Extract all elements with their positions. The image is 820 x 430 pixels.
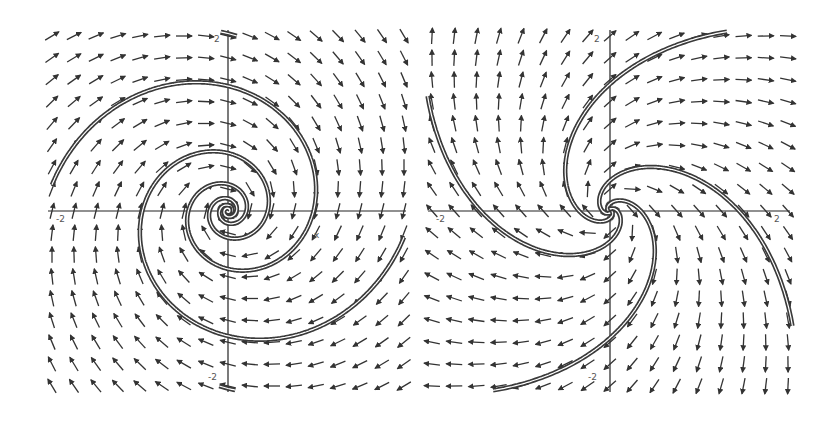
vector-arrow bbox=[713, 122, 729, 125]
vector-arrow bbox=[761, 226, 770, 239]
vector-arrow bbox=[669, 78, 684, 82]
vector-arrow bbox=[470, 251, 484, 259]
vector-arrow bbox=[308, 362, 323, 366]
vector-arrow bbox=[112, 380, 123, 392]
vector-arrow bbox=[787, 334, 788, 350]
trajectory-highlight bbox=[140, 151, 404, 339]
vector-arrow bbox=[651, 313, 658, 327]
vector-arrow bbox=[540, 51, 547, 66]
vector-arrow bbox=[718, 247, 724, 262]
vector-arrow bbox=[287, 31, 300, 40]
vector-arrow bbox=[242, 320, 258, 321]
vector-arrow bbox=[469, 319, 485, 321]
vector-arrow bbox=[713, 79, 729, 80]
vector-arrow bbox=[177, 382, 191, 390]
vector-arrow bbox=[781, 163, 794, 172]
vector-arrow bbox=[335, 226, 342, 240]
vector-arrow bbox=[312, 117, 320, 131]
vector-arrow bbox=[286, 363, 302, 366]
vector-arrow bbox=[647, 144, 663, 146]
vector-arrow bbox=[476, 72, 477, 88]
vector-arrow bbox=[669, 33, 684, 39]
vector-arrow bbox=[401, 72, 407, 87]
vector-arrow bbox=[736, 142, 751, 148]
vector-arrow bbox=[673, 379, 680, 393]
vector-arrow bbox=[520, 137, 521, 153]
vector-arrow bbox=[453, 116, 456, 132]
vector-arrow bbox=[518, 29, 524, 44]
vector-arrow bbox=[742, 378, 745, 394]
vector-arrow bbox=[156, 359, 169, 369]
vector-arrow bbox=[519, 72, 523, 88]
vector-arrow bbox=[737, 163, 751, 171]
vector-arrow bbox=[243, 120, 257, 128]
vector-arrow bbox=[308, 340, 323, 345]
vector-arrow bbox=[765, 378, 767, 394]
vector-arrow bbox=[70, 357, 78, 371]
vector-arrow bbox=[558, 318, 573, 324]
vector-arrow bbox=[397, 382, 411, 390]
vector-arrow bbox=[561, 51, 569, 65]
vector-arrow bbox=[625, 142, 640, 148]
vector-arrow bbox=[758, 121, 773, 126]
vector-arrow bbox=[95, 247, 96, 263]
vector-arrow bbox=[713, 57, 729, 59]
vector-arrow bbox=[784, 248, 791, 262]
vector-arrow bbox=[536, 362, 551, 367]
vector-arrow bbox=[133, 119, 147, 127]
vector-arrow bbox=[115, 182, 122, 196]
vector-arrow bbox=[176, 101, 192, 103]
vector-arrow bbox=[720, 269, 723, 285]
vector-arrow bbox=[73, 225, 75, 241]
vector-arrow bbox=[336, 138, 341, 153]
vector-arrow bbox=[137, 269, 143, 284]
vector-arrow bbox=[647, 32, 661, 39]
vector-arrow bbox=[542, 159, 544, 175]
vector-arrow bbox=[338, 181, 339, 197]
vector-arrow bbox=[670, 185, 684, 193]
vector-arrow bbox=[91, 380, 101, 392]
vector-arrow bbox=[737, 184, 750, 194]
vector-arrow bbox=[736, 35, 752, 36]
vector-arrow bbox=[93, 182, 99, 197]
vector-arrow bbox=[377, 29, 386, 42]
left-x-axis-label: x bbox=[314, 230, 319, 240]
vector-arrow bbox=[330, 384, 345, 389]
vector-arrow bbox=[378, 73, 385, 87]
vector-arrow bbox=[267, 139, 278, 151]
vector-arrow bbox=[89, 76, 103, 84]
vector-arrow bbox=[381, 181, 383, 197]
vector-arrow bbox=[424, 341, 440, 344]
vector-arrow bbox=[581, 381, 594, 390]
vector-arrow bbox=[310, 272, 322, 282]
vector-arrow bbox=[198, 145, 214, 146]
vector-arrow bbox=[399, 292, 409, 304]
vector-arrow bbox=[473, 160, 479, 175]
vector-arrow bbox=[375, 382, 389, 389]
vector-arrow bbox=[425, 273, 439, 280]
left-x-min-label: -2 bbox=[56, 214, 65, 224]
vector-arrow bbox=[176, 122, 192, 125]
vector-arrow bbox=[70, 160, 78, 174]
vector-arrow bbox=[382, 159, 383, 175]
vector-arrow bbox=[583, 117, 592, 130]
panel-0 bbox=[45, 29, 411, 393]
vector-arrow bbox=[381, 137, 384, 153]
vector-arrow bbox=[47, 117, 57, 129]
vector-arrow bbox=[497, 50, 500, 66]
vector-arrow bbox=[73, 269, 76, 285]
vector-arrow bbox=[74, 247, 75, 263]
vector-arrow bbox=[583, 73, 593, 86]
vector-arrow bbox=[780, 57, 796, 59]
vector-arrow bbox=[498, 94, 499, 110]
vector-arrow bbox=[491, 363, 507, 365]
vector-arrow bbox=[242, 276, 258, 277]
vector-arrow bbox=[46, 75, 58, 85]
vector-arrow bbox=[447, 296, 462, 301]
vector-arrow bbox=[198, 101, 214, 102]
vector-arrow bbox=[585, 160, 591, 175]
vector-arrow bbox=[116, 269, 121, 284]
vector-arrow bbox=[583, 30, 593, 42]
vector-arrow bbox=[72, 291, 76, 306]
vector-arrow bbox=[92, 335, 100, 349]
